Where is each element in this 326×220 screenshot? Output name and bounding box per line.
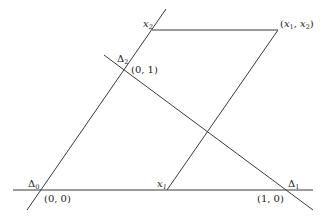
delta1-delta2-line (104, 55, 313, 210)
label-x2: x2 (143, 18, 153, 31)
label-delta1: Δ1 (288, 178, 299, 191)
x1-parallel-line (167, 30, 278, 190)
label-x1: x1 (157, 178, 167, 191)
label-x1-x2-point: (x1, x2) (280, 18, 314, 31)
label-delta0: Δ0 (28, 178, 39, 191)
label-origin: (0, 0) (44, 193, 71, 204)
geometry-diagram: x2 (x1, x2) Δ2 (0, 1) Δ0 (0, 0) x1 Δ1 (1… (0, 0, 326, 220)
label-point-0-1: (0, 1) (131, 64, 158, 75)
delta0-line (27, 9, 166, 210)
label-point-1-0: (1, 0) (257, 193, 284, 204)
label-delta2: Δ2 (117, 53, 128, 66)
